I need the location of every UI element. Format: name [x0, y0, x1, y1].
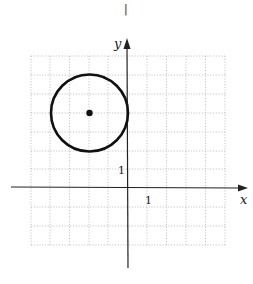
y-axis-label: y [113, 36, 122, 51]
y-tick-label-1: 1 [118, 164, 125, 177]
x-tick-label-1: 1 [145, 194, 152, 207]
top-mark: | [124, 2, 128, 16]
circle-center-point [86, 110, 92, 116]
axes [11, 44, 240, 268]
y-axis [127, 44, 128, 268]
x-axis-arrow-icon [238, 185, 248, 192]
y-axis-arrow-icon [124, 38, 131, 49]
x-axis-label: x [240, 192, 248, 207]
x-axis [11, 187, 240, 188]
coordinate-plane: | y x 1 1 [0, 0, 253, 284]
